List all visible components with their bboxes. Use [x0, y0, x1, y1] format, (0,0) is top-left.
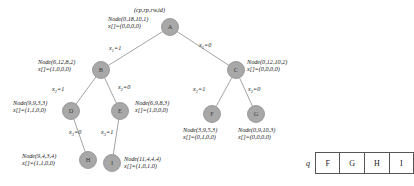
- edge-label-c-g: x2=0: [248, 85, 260, 94]
- node-label-d: Node(9,9,3,3)x[]=(1,1,0,0): [13, 99, 47, 113]
- tree-edge-b-d: [76, 77, 96, 104]
- node-label-line2-a: x[]=(0,0,0,0): [108, 22, 148, 29]
- node-label-line1-a: Node(0,18,10,1): [108, 15, 148, 22]
- node-glyph-g: G: [246, 110, 266, 117]
- node-glyph-b: B: [91, 66, 111, 73]
- node-label-line1-c: Node(0,12,10,2): [247, 58, 287, 65]
- node-glyph-c: C: [226, 66, 246, 73]
- edge-label-value: =1: [114, 44, 121, 51]
- node-label-line2-g: x[]=(0,0,0,0): [238, 133, 275, 140]
- node-label-line1-d: Node(9,9,3,3): [13, 99, 47, 106]
- tree-edge-c-f: [216, 77, 232, 106]
- queue-cell[interactable]: F: [316, 153, 340, 174]
- tree-edge-e-i: [113, 119, 118, 154]
- figure-canvas: (cp,rp,rw,id) Node(0,18,10,1)x[]=(0,0,0,…: [0, 0, 414, 186]
- node-label-a: Node(0,18,10,1)x[]=(0,0,0,0): [108, 15, 148, 29]
- node-label-b: Node(6,12,8,2)x[]=(1,0,0,0): [38, 58, 75, 72]
- node-label-line2-f: x[]=(0,1,0,0): [183, 133, 217, 140]
- tree-nodes: [63, 19, 265, 172]
- node-label-line1-b: Node(6,12,8,2): [38, 58, 75, 65]
- edge-label-b-d: x2=1: [52, 85, 64, 94]
- node-label-line1-g: Node(0,9,10,3): [238, 126, 275, 133]
- queue-cell[interactable]: G: [340, 153, 365, 174]
- tree-edge-b-e: [105, 78, 117, 104]
- node-label-line1-f: Node(3,9,5,3): [183, 126, 217, 133]
- node-label-line2-d: x[]=(1,1,0,0): [13, 106, 47, 113]
- node-label-g: Node(0,9,10,3)x[]=(0,0,0,0): [238, 126, 275, 140]
- node-label-e: Node(6,9,8,3)x[]=(1,0,0,0): [135, 99, 169, 113]
- edge-label-value: =1: [198, 85, 205, 92]
- node-glyph-d: D: [61, 107, 81, 114]
- queue-table: FGHI: [315, 152, 414, 174]
- node-glyph-h: H: [78, 156, 98, 163]
- queue-cell[interactable]: H: [365, 153, 390, 174]
- edge-label-a-b: x1=1: [109, 44, 121, 53]
- queue-label: q: [306, 159, 310, 168]
- edge-label-value: =0: [74, 128, 81, 135]
- node-glyph-i: I: [102, 159, 122, 166]
- queue-cell[interactable]: I: [389, 153, 413, 174]
- edge-label-value: =1: [106, 128, 113, 135]
- header-legend: (cp,rp,rw,id): [134, 6, 165, 13]
- node-label-line1-h: Node(9,4,3,4): [22, 152, 56, 159]
- node-glyph-f: F: [202, 110, 222, 117]
- edge-label-value: =1: [57, 85, 64, 92]
- node-label-line2-h: x[]=(1,1,0,0): [22, 159, 56, 166]
- node-label-i: Node(11,4,4,4)x[]=(1,0,1,0): [124, 155, 161, 169]
- edge-label-d-h: x3=0: [69, 128, 81, 137]
- node-glyph-e: E: [110, 107, 130, 114]
- edge-label-value: =0: [204, 41, 211, 48]
- node-label-line1-i: Node(11,4,4,4): [124, 155, 161, 162]
- edge-label-value: =0: [123, 83, 130, 90]
- node-label-line2-c: x[]=(0,0,0,0): [247, 65, 287, 72]
- queue-row: FGHI: [316, 153, 414, 174]
- edge-label-b-e: x2=0: [118, 83, 130, 92]
- node-glyph-a: A: [160, 23, 180, 30]
- edge-label-value: =0: [253, 85, 260, 92]
- node-label-line2-e: x[]=(1,0,0,0): [135, 106, 169, 113]
- node-label-f: Node(3,9,5,3)x[]=(0,1,0,0): [183, 126, 217, 140]
- node-label-h: Node(9,4,3,4)x[]=(1,1,0,0): [22, 152, 56, 166]
- node-label-line2-b: x[]=(1,0,0,0): [38, 65, 75, 72]
- node-label-line2-i: x[]=(1,0,1,0): [124, 162, 161, 169]
- node-label-line1-e: Node(6,9,8,3): [135, 99, 169, 106]
- node-label-c: Node(0,12,10,2)x[]=(0,0,0,0): [247, 58, 287, 72]
- edge-label-c-f: x2=1: [193, 85, 205, 94]
- edge-label-a-c: x1=0: [199, 41, 211, 50]
- edge-label-e-i: x3=1: [101, 128, 113, 137]
- queue-widget: q FGHI: [306, 152, 414, 174]
